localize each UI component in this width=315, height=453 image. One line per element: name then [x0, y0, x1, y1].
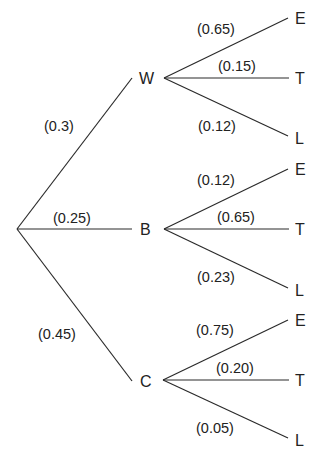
prob-C-T: (0.20) — [216, 360, 254, 376]
leaf-C-L: L — [295, 432, 304, 449]
prob-W-T: (0.15) — [218, 58, 256, 74]
leaf-W-L: L — [295, 130, 304, 147]
leaf-C-T: T — [295, 372, 305, 389]
probability-tree-diagram: (0.3) (0.25) (0.45) W B C (0.65) (0.15) … — [0, 0, 315, 453]
prob-B-L: (0.23) — [197, 269, 235, 285]
node-C: C — [140, 373, 152, 390]
edge-root-C — [17, 229, 132, 381]
leaf-C-E: E — [295, 312, 306, 329]
prob-B-T: (0.65) — [217, 209, 255, 225]
leaf-W-E: E — [295, 10, 306, 27]
node-B: B — [140, 221, 151, 238]
edge-root-W — [17, 78, 132, 229]
prob-root-W: (0.3) — [44, 118, 74, 134]
prob-B-E: (0.12) — [197, 172, 235, 188]
prob-W-E: (0.65) — [197, 21, 235, 37]
prob-C-E: (0.75) — [196, 322, 234, 338]
prob-W-L: (0.12) — [198, 118, 236, 134]
node-W: W — [139, 70, 155, 87]
leaf-B-L: L — [295, 282, 304, 299]
prob-root-C: (0.45) — [38, 326, 76, 342]
leaf-B-E: E — [295, 161, 306, 178]
leaf-B-T: T — [295, 221, 305, 238]
prob-root-B: (0.25) — [53, 210, 91, 226]
prob-C-L: (0.05) — [196, 420, 234, 436]
leaf-W-T: T — [295, 70, 305, 87]
